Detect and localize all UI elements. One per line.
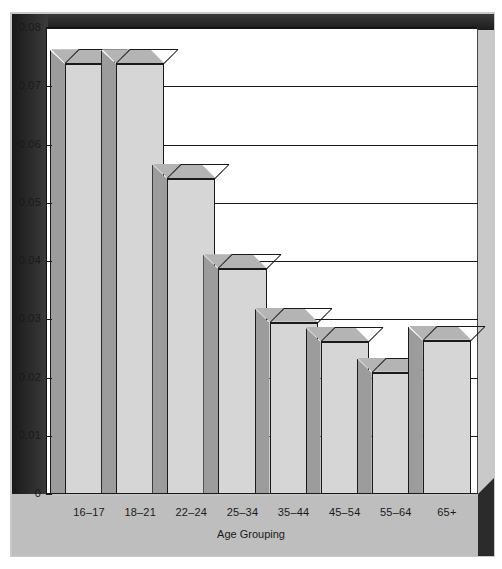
bar-top-outline bbox=[321, 341, 369, 342]
y-axis-tick-label: 0.03 bbox=[0, 312, 41, 324]
bar-front-face bbox=[423, 341, 471, 494]
bar-side-face bbox=[408, 327, 423, 494]
chart-canvas: Percent Age Grouping 00.010.020.030.040.… bbox=[0, 0, 502, 569]
y-axis-tick-mark bbox=[46, 494, 52, 495]
y-axis-tick-mark bbox=[46, 86, 52, 87]
bar-side-face bbox=[152, 165, 167, 494]
bar-side-face bbox=[50, 50, 65, 494]
y-axis-tick-label: 0.07 bbox=[0, 79, 41, 91]
bar-top-outline bbox=[437, 326, 485, 327]
y-axis-tick-mark bbox=[46, 145, 52, 146]
bar-top-outline bbox=[335, 327, 383, 328]
y-axis-tick-mark bbox=[46, 436, 52, 437]
y-axis-tick-label: 0 bbox=[0, 487, 41, 499]
x-axis-title: Age Grouping bbox=[0, 528, 502, 540]
y-axis-tick-label: 0.08 bbox=[0, 21, 41, 33]
bar-top-outline bbox=[167, 178, 215, 179]
bar-side-face bbox=[357, 359, 372, 494]
bar-side-face bbox=[203, 255, 218, 494]
y-axis-tick-label: 0.01 bbox=[0, 429, 41, 441]
y-axis-tick-mark bbox=[46, 319, 52, 320]
chart-floor bbox=[12, 494, 494, 556]
bar-side-face bbox=[306, 328, 321, 494]
bar-7 bbox=[423, 326, 471, 494]
y-axis-tick-mark bbox=[46, 203, 52, 204]
bar-top-outline bbox=[130, 49, 178, 50]
bar-side-face bbox=[255, 309, 270, 494]
bar-top-outline bbox=[368, 327, 383, 342]
bar-side-face bbox=[101, 50, 116, 494]
bar-top-outline bbox=[284, 308, 332, 309]
y-axis-tick-label: 0.04 bbox=[0, 254, 41, 266]
bar-top-outline bbox=[270, 322, 318, 323]
y-axis-tick-label: 0.05 bbox=[0, 196, 41, 208]
plot-area bbox=[47, 28, 478, 494]
x-axis-tick-label: 65+ bbox=[413, 506, 481, 518]
bar-top-outline bbox=[215, 164, 230, 179]
y-axis-tick-mark bbox=[46, 28, 52, 29]
y-axis-tick-mark bbox=[46, 261, 52, 262]
bar-top-outline bbox=[317, 308, 332, 323]
y-axis-tick-label: 0.06 bbox=[0, 138, 41, 150]
y-axis-tick-label: 0.02 bbox=[0, 371, 41, 383]
bar-top-outline bbox=[218, 268, 266, 269]
bar-top-outline bbox=[116, 63, 164, 64]
bar-top-outline bbox=[164, 49, 179, 64]
bar-top-outline bbox=[423, 340, 471, 341]
y-axis-tick-mark bbox=[46, 378, 52, 379]
gridline bbox=[47, 28, 478, 29]
bar-top-outline bbox=[181, 164, 229, 165]
bar-top-outline bbox=[232, 254, 280, 255]
